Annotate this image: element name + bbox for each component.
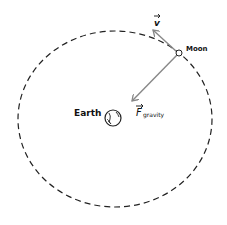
gravity-vector-arrow (132, 55, 177, 101)
moon-icon (176, 50, 182, 56)
earth-label: Earth (74, 108, 101, 118)
gravity-subscript: gravity (143, 111, 165, 119)
velocity-label: v (154, 18, 161, 28)
velocity-vector-arrow (153, 30, 177, 52)
moon-label: Moon (186, 45, 208, 53)
gravity-label: F (136, 107, 142, 118)
earth-icon (105, 110, 121, 126)
orbit-diagram: Earth F gravity v Moon (0, 0, 227, 225)
